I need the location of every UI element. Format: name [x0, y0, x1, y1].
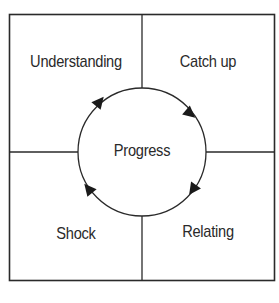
quadrant-label-relating: Relating — [153, 222, 263, 242]
arrow-icon — [91, 93, 108, 110]
center-label-progress: Progress — [90, 141, 193, 161]
arrow-icon — [184, 182, 201, 199]
quadrant-label-catch-up: Catch up — [153, 52, 263, 72]
quadrant-label-understanding: Understanding — [21, 52, 131, 72]
arrow-icon — [182, 105, 199, 122]
quadrant-label-shock: Shock — [21, 224, 131, 244]
